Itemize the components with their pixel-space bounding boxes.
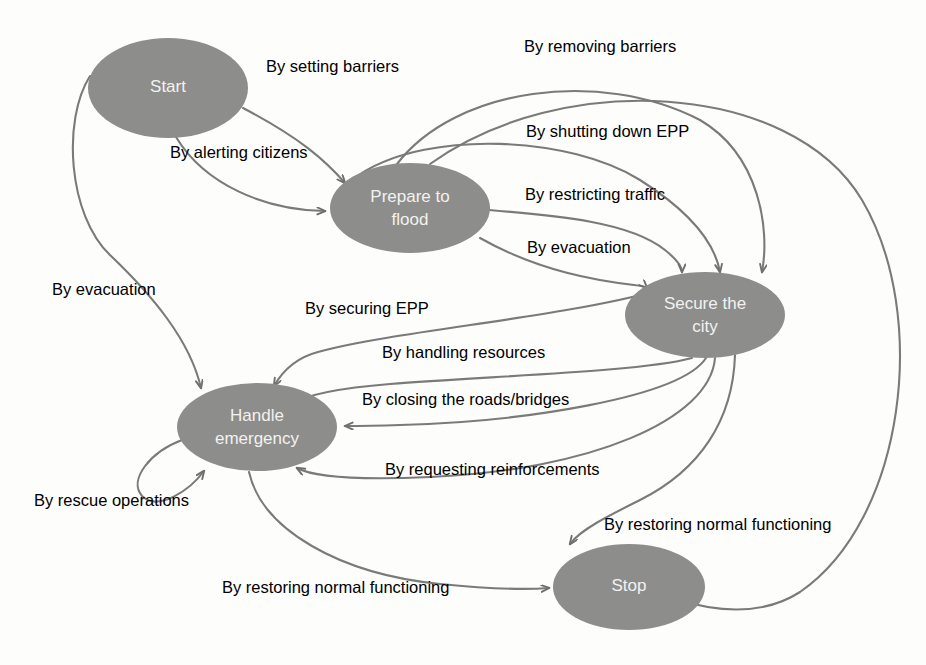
edge-label-e7: By evacuation [527, 238, 631, 257]
edge-label-e9: By handling resources [382, 343, 545, 362]
state-diagram-canvas: StartPrepare tofloodSecure thecityHandle… [0, 0, 926, 665]
edge-label-e11: By requesting reinforcements [385, 460, 600, 479]
edge-label-e6: By restricting traffic [525, 185, 665, 204]
state-node-handle[interactable]: Handleemergency [177, 383, 337, 471]
state-node-label-stop: Stop [612, 576, 647, 595]
edge-label-e13: By restoring normal functioning [222, 578, 449, 597]
state-node-secure[interactable]: Secure thecity [625, 272, 785, 358]
diagram-svg: StartPrepare tofloodSecure thecityHandle… [0, 0, 926, 665]
state-node-label-start: Start [150, 77, 186, 96]
state-node-ellipse-secure [625, 272, 785, 358]
state-node-label-prepare: Prepare to [370, 187, 449, 206]
state-node-label-handle: Handle [230, 406, 284, 425]
edge-label-e5: By shutting down EPP [526, 122, 689, 141]
edge-label-e4: By removing barriers [524, 37, 676, 56]
state-node-label2-prepare: flood [392, 210, 429, 229]
state-node-ellipse-handle [177, 383, 337, 471]
state-node-label-secure: Secure the [664, 294, 746, 313]
edge-label-e14: By restoring normal functioning [604, 515, 831, 534]
state-node-ellipse-prepare [330, 163, 490, 253]
edge-handle-to-stop-restoring [249, 472, 549, 589]
state-node-stop[interactable]: Stop [553, 544, 705, 630]
edge-label-e2: By alerting citizens [170, 143, 308, 162]
edge-label-e12: By rescue operations [34, 491, 189, 510]
edge-label-e8: By securing EPP [305, 299, 429, 318]
state-node-label2-secure: city [692, 317, 718, 336]
state-node-label2-handle: emergency [215, 429, 300, 448]
edge-label-e10: By closing the roads/bridges [362, 390, 569, 409]
edge-label-e3: By evacuation [52, 280, 156, 299]
state-node-start[interactable]: Start [88, 38, 248, 138]
edge-label-e1: By setting barriers [266, 57, 399, 76]
state-node-prepare[interactable]: Prepare toflood [330, 163, 490, 253]
